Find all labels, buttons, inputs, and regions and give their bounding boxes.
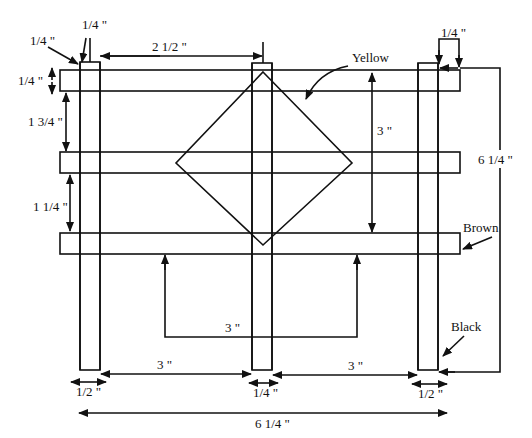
bracket-right-offset	[439, 39, 459, 66]
label-black: Black	[451, 319, 482, 334]
label-total-width: 6 1/4 "	[255, 416, 290, 431]
label-top-left-corner: 1/4 "	[30, 33, 55, 48]
right-post	[418, 63, 438, 370]
label-right-post-width: 1/2 "	[418, 386, 443, 401]
left-post	[80, 62, 100, 370]
label-top-post-width: 1/4 "	[82, 17, 107, 32]
label-right-post-offset: 1/4 "	[441, 25, 466, 40]
arrow-yellow	[306, 66, 348, 99]
label-middle-post-width: 1/4 "	[253, 385, 278, 400]
label-total-height: 6 1/4 "	[478, 152, 513, 167]
label-bottom-gap-right: 3 "	[348, 358, 363, 373]
label-rail-gap-2: 1 1/4 "	[33, 199, 68, 214]
arrow-top-left-corner	[48, 47, 78, 64]
label-bottom-gap-left: 3 "	[157, 357, 172, 372]
label-brown: Brown	[463, 220, 499, 235]
arrow-top-post-width	[82, 38, 86, 62]
fence-diagram: 1/4 " 1/4 " 2 1/2 " 1/4 " 1 3/4 " 1 1/4 …	[0, 0, 532, 438]
arrow-brown	[463, 237, 492, 249]
arrow-black	[443, 336, 464, 356]
label-diamond-height: 3 "	[377, 123, 392, 138]
label-rail-gap-1: 1 3/4 "	[28, 114, 63, 129]
middle-post	[252, 63, 272, 370]
label-left-post-width: 1/2 "	[76, 384, 101, 399]
label-post-gap-top: 2 1/2 "	[152, 39, 187, 54]
label-rail-thickness: 1/4 "	[18, 73, 43, 88]
label-yellow: Yellow	[352, 50, 390, 65]
label-diamond-width: 3 "	[225, 320, 240, 335]
